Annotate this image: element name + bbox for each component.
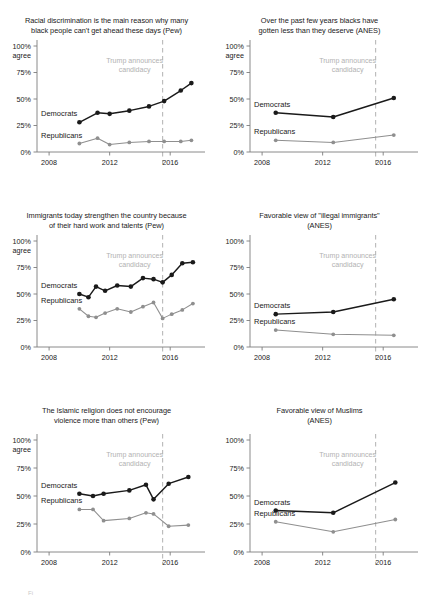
plot-area: Trump announcescandidacy100%75%50%25%0%a… [0, 0, 213, 195]
data-point-republicans [393, 518, 397, 522]
y-tick-label: 50% [17, 95, 32, 104]
data-point-democrats [141, 276, 146, 281]
x-tick-label: 2016 [375, 158, 391, 167]
data-point-democrats [86, 295, 91, 300]
data-point-democrats [178, 88, 183, 93]
chart-svg-2: Trump announcescandidacy100%75%50%25%0%a… [0, 195, 213, 390]
data-point-republicans [77, 508, 81, 512]
data-point-republicans [392, 333, 396, 337]
x-tick-label: 2012 [315, 158, 331, 167]
plot-area: Trump announcescandidacy100%75%50%25%0%a… [0, 390, 213, 596]
data-point-democrats [180, 261, 185, 266]
data-point-democrats [186, 475, 191, 480]
y-tick-label: 75% [17, 263, 32, 272]
data-point-republicans [115, 307, 119, 311]
x-tick-label: 2008 [254, 158, 270, 167]
x-tick-label: 2016 [162, 558, 178, 567]
data-point-republicans [331, 530, 335, 534]
data-point-democrats [151, 277, 156, 282]
x-tick-label: 2012 [102, 158, 118, 167]
data-point-democrats [331, 511, 336, 516]
y-tick-label: 0% [21, 548, 32, 557]
data-point-republicans [152, 301, 156, 305]
y-tick-label: 25% [17, 121, 32, 130]
y-tick-label: 75% [230, 263, 245, 272]
series-label-democrats: Democrats [41, 481, 78, 490]
data-point-republicans [87, 314, 91, 318]
plot-area: Trump announcescandidacy100%75%50%25%0%a… [0, 195, 213, 390]
data-point-republicans [152, 512, 156, 516]
y-tick-label: 25% [230, 121, 245, 130]
series-label-republicans: Republicans [41, 496, 83, 505]
data-point-republicans [331, 141, 335, 145]
data-point-republicans [179, 140, 183, 144]
chart-svg-5: Trump announcescandidacy100%75%50%25%0%2… [213, 390, 426, 596]
annotation-line-2: candidacy [332, 460, 364, 468]
data-point-republicans [103, 311, 107, 315]
x-tick-label: 2016 [162, 353, 178, 362]
y-tick-label: 100% [226, 42, 245, 51]
y-tick-label: 100% [13, 436, 32, 445]
data-point-republicans [162, 140, 166, 144]
y-tick-label: 0% [21, 343, 32, 352]
panel-immigrants-strengthen: Immigrants today strengthen the country … [0, 195, 213, 390]
chart-grid: Racial discrimination is the main reason… [0, 0, 426, 596]
data-point-democrats [127, 488, 132, 493]
data-point-republicans [127, 517, 131, 521]
data-point-republicans [274, 520, 278, 524]
plot-area: Trump announcescandidacy100%75%50%25%0%2… [213, 390, 426, 596]
x-tick-label: 2008 [254, 558, 270, 567]
y-tick-label: 50% [230, 290, 245, 299]
panel-blacks-gotten-less: Over the past few years blacks have gott… [213, 0, 426, 195]
x-tick-label: 2012 [315, 353, 331, 362]
y-tick-label: 0% [234, 148, 245, 157]
x-tick-label: 2016 [162, 158, 178, 167]
series-label-democrats: Democrats [254, 498, 291, 507]
data-point-democrats [77, 120, 82, 125]
data-point-republicans [129, 310, 133, 314]
x-tick-label: 2016 [375, 558, 391, 567]
data-point-republicans [191, 302, 195, 306]
annotation-line-1: Trump announces [106, 451, 163, 459]
series-label-democrats: Democrats [41, 281, 78, 290]
data-point-republicans [141, 305, 145, 309]
data-point-democrats [393, 480, 398, 485]
series-line-democrats [79, 477, 188, 499]
data-point-republicans [147, 140, 151, 144]
x-tick-label: 2008 [41, 353, 57, 362]
data-point-republicans [167, 524, 171, 528]
data-point-republicans [392, 133, 396, 137]
y-axis-unit-label: agree [226, 51, 244, 60]
series-label-democrats: Democrats [254, 301, 291, 310]
data-point-republicans [144, 511, 148, 515]
annotation-line-1: Trump announces [319, 252, 376, 260]
series-line-republicans [79, 509, 188, 526]
x-tick-label: 2008 [41, 158, 57, 167]
data-point-republicans [96, 136, 100, 140]
y-tick-label: 50% [17, 492, 32, 501]
data-point-republicans [274, 138, 278, 142]
y-tick-label: 75% [230, 464, 245, 473]
x-tick-label: 2016 [375, 353, 391, 362]
y-tick-label: 75% [17, 68, 32, 77]
data-point-democrats [95, 110, 100, 115]
series-label-republicans: Republicans [41, 296, 83, 305]
data-point-republicans [180, 308, 184, 312]
annotation-line-2: candidacy [119, 66, 151, 74]
data-point-republicans [91, 508, 95, 512]
data-point-democrats [77, 491, 82, 496]
data-point-democrats [147, 104, 152, 109]
data-point-democrats [160, 280, 165, 285]
annotation-line-1: Trump announces [106, 57, 163, 65]
annotation-line-1: Trump announces [106, 252, 163, 260]
chart-svg-4: Trump announcescandidacy100%75%50%25%0%a… [0, 390, 213, 596]
series-label-republicans: Republicans [254, 317, 296, 326]
data-point-democrats [169, 273, 174, 278]
data-point-democrats [129, 284, 134, 289]
y-tick-label: 100% [226, 237, 245, 246]
panel-favorable-muslims: Favorable view of Muslims (ANES) Trump a… [213, 390, 426, 596]
annotation-line-1: Trump announces [319, 451, 376, 459]
annotation-line-2: candidacy [119, 460, 151, 468]
y-tick-label: 0% [234, 548, 245, 557]
figure-caption-stub: Fi [28, 590, 33, 596]
